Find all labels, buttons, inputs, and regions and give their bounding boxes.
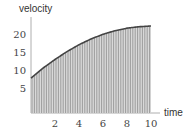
chart-plot-area bbox=[0, 0, 183, 131]
